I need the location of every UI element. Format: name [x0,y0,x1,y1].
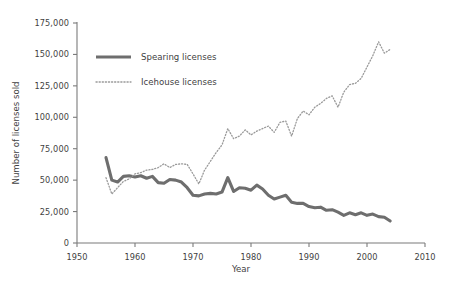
x-axis-tick-labels: 1950196019701980199020002010 [66,252,435,262]
chart-legend: Spearing licenses Icehouse licenses [96,52,217,87]
y-tick-label: 125,000 [34,81,69,91]
x-tick-label: 2000 [356,252,377,262]
y-tick-label: 100,000 [34,112,69,122]
y-axis-tick-labels: 025,00050,00075,000100,000125,000150,000… [34,18,69,248]
line-chart: 025,00050,00075,000100,000125,000150,000… [0,0,459,289]
legend-label-spearing: Spearing licenses [141,52,217,62]
chart-container: 025,00050,00075,000100,000125,000150,000… [0,0,459,289]
series-line-icehouse-licenses [106,42,390,194]
y-tick-label: 50,000 [40,175,69,185]
x-tick-label: 1950 [66,252,87,262]
x-tick-label: 2010 [414,252,435,262]
x-tick-label: 1960 [124,252,145,262]
x-tick-label: 1990 [298,252,319,262]
y-tick-label: 75,000 [40,144,69,154]
y-axis-title: Number of licenses sold [11,81,21,184]
y-axis: 025,00050,00075,000100,000125,000150,000… [34,18,77,248]
x-axis: 1950196019701980199020002010 [66,243,435,262]
data-series-group [106,42,390,221]
x-axis-ticks [77,243,425,247]
y-axis-ticks [73,23,77,243]
y-tick-label: 0 [64,238,69,248]
legend-label-icehouse: Icehouse licenses [141,77,217,87]
y-tick-label: 25,000 [40,207,69,217]
x-axis-title: Year [231,264,251,274]
y-tick-label: 150,000 [34,49,69,59]
y-tick-label: 175,000 [34,18,69,28]
series-line-spearing-licenses [106,158,390,221]
x-tick-label: 1980 [240,252,261,262]
x-tick-label: 1970 [182,252,203,262]
